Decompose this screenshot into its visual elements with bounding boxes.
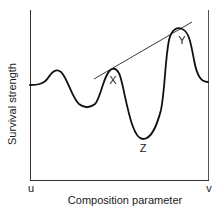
peak-x-label: X [109,74,117,86]
y-axis-title: Survival strength [6,63,18,145]
x-end-label: v [206,182,212,194]
trough-z-label: Z [140,142,147,154]
survival-strength-diagram: X Y Z u v Composition parameter Survival… [0,0,223,207]
x-start-label: u [28,182,34,194]
peak-y-label: Y [178,34,186,46]
x-axis-title: Composition parameter [68,194,183,206]
